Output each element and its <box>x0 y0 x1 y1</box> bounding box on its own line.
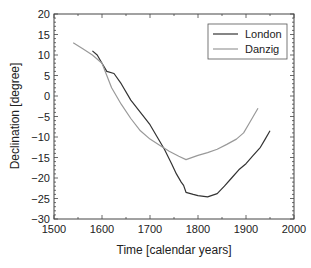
x-tick-label: 1800 <box>186 223 210 235</box>
y-tick-label: −25 <box>31 193 50 205</box>
data-series <box>73 43 270 197</box>
y-tick-label: −20 <box>31 172 50 184</box>
x-tick-label: 2000 <box>282 223 306 235</box>
series-line-london <box>92 51 270 197</box>
x-tick-label: 1500 <box>42 223 66 235</box>
y-tick-label: −5 <box>37 111 50 123</box>
y-tick-label: −10 <box>31 131 50 143</box>
x-tick-label: 1900 <box>234 223 258 235</box>
y-tick-label: 10 <box>38 49 50 61</box>
y-tick-label: 0 <box>44 90 50 102</box>
legend-label-danzig: Danzig <box>245 43 279 55</box>
line-chart: 20151050−5−10−15−20−25−30 15001600170018… <box>0 0 311 268</box>
legend-label-london: London <box>245 28 282 40</box>
x-axis-title: Time [calendar years] <box>117 243 232 257</box>
y-tick-label: 15 <box>38 29 50 41</box>
y-tick-label: 20 <box>38 8 50 20</box>
y-tick-labels: 20151050−5−10−15−20−25−30 <box>31 8 50 225</box>
legend: London Danzig <box>208 24 287 59</box>
y-tick-label: −15 <box>31 152 50 164</box>
y-axis-title: Declination [degree] <box>8 63 22 170</box>
y-tick-label: 5 <box>44 70 50 82</box>
x-tick-label: 1600 <box>90 223 114 235</box>
x-tick-label: 1700 <box>138 223 162 235</box>
x-tick-labels: 150016001700180019002000 <box>42 223 306 235</box>
